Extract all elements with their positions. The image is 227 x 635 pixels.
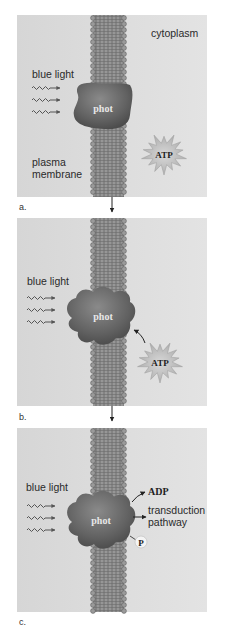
phospholipid-head [122, 441, 127, 446]
phospholipid-head [122, 579, 127, 584]
panel-a: blue light phot cytoplasm plasma membran… [17, 15, 207, 197]
phospholipid-head [122, 387, 127, 392]
phospholipid-head [91, 471, 96, 476]
phospholipid-head [91, 381, 96, 386]
panel-label-a: a. [19, 202, 27, 212]
plasma-membrane-label-line1: plasma [32, 156, 66, 168]
transduction-pathway-label-line2: pathway [148, 516, 188, 528]
phospholipid-head [122, 357, 127, 362]
cytoplasm-label: cytoplasm [151, 27, 199, 39]
phospholipid-head [122, 489, 127, 494]
phospholipid-head [122, 573, 127, 578]
phospholipid-head [91, 345, 96, 350]
phospholipid-head [122, 459, 127, 464]
phospholipid-head [122, 399, 127, 404]
phospholipid-head [91, 178, 96, 183]
panel-label-b: b. [19, 412, 27, 422]
phospholipid-head [91, 435, 96, 440]
phospholipid-head [122, 178, 127, 183]
phospholipid-head [122, 40, 127, 45]
phospholipid-head [91, 52, 96, 57]
phospholipid-head [122, 243, 127, 248]
phospholipid-head [91, 64, 96, 69]
blue-light-label: blue light [32, 68, 74, 80]
phospholipid-head [122, 393, 127, 398]
phospholipid-head [122, 28, 127, 33]
phospholipid-head [122, 225, 127, 230]
phospholipid-head [91, 477, 96, 482]
phospholipid-head [91, 357, 96, 362]
phospholipid-head [122, 477, 127, 482]
phospholipid-head [91, 76, 96, 81]
phospholipid-head [122, 351, 127, 356]
phot-label: phot [93, 311, 113, 322]
phospholipid-head [122, 70, 127, 75]
phospholipid-head [91, 489, 96, 494]
atp-label: ATP [151, 358, 169, 368]
phospholipid-head [91, 160, 96, 165]
phospholipid-head [91, 567, 96, 572]
phospholipid-head [122, 76, 127, 81]
phospholipid-head [91, 58, 96, 63]
adp-label: ADP [148, 486, 169, 497]
phospholipid-head [122, 591, 127, 596]
phospholipid-head [91, 603, 96, 608]
phospholipid-head [122, 447, 127, 452]
phospholipid-head [122, 585, 127, 590]
phospholipid-head [91, 172, 96, 177]
phospholipid-head [122, 369, 127, 374]
phospholipid-head [122, 148, 127, 153]
phospholipid-head [91, 465, 96, 470]
phospholipid-head [91, 40, 96, 45]
phospholipid-head [122, 273, 127, 278]
phospholipid-head [122, 609, 127, 614]
phospholipid-head [122, 465, 127, 470]
panel-b: blue light phot ATP [17, 218, 207, 406]
phospholipid-head [91, 387, 96, 392]
phospholipid-head [122, 261, 127, 266]
phospholipid-head [91, 375, 96, 380]
phospholipid-head [91, 255, 96, 260]
phospholipid-head [91, 267, 96, 272]
phospholipid-head [91, 28, 96, 33]
phospholipid-head [122, 231, 127, 236]
phospholipid-head [122, 255, 127, 260]
phospholipid-head [91, 190, 96, 195]
phospholipid-head [91, 555, 96, 560]
phospholipid-head [122, 46, 127, 51]
phospholipid-head [122, 130, 127, 135]
phospholipid-head [122, 154, 127, 159]
phospholipid-head [122, 483, 127, 488]
phospholipid-head [91, 579, 96, 584]
phospholipid-head [91, 393, 96, 398]
phospholipid-head [122, 267, 127, 272]
phospholipid-head [91, 459, 96, 464]
phospholipid-head [122, 345, 127, 350]
phospholipid-head [91, 219, 96, 224]
phospholipid-head [91, 549, 96, 554]
phospholipid-head [91, 142, 96, 147]
phospholipid-head [91, 154, 96, 159]
phospholipid-head [122, 237, 127, 242]
phospholipid-head [91, 447, 96, 452]
phot-label: phot [91, 515, 111, 526]
phospholipid-head [91, 483, 96, 488]
phospholipid-head [122, 249, 127, 254]
phospholipid-head [91, 285, 96, 290]
phospholipid-head [122, 561, 127, 566]
phospholipid-head [122, 471, 127, 476]
phospholipid-head [91, 561, 96, 566]
phospholipid-head [91, 363, 96, 368]
phospholipid-head [122, 453, 127, 458]
phospholipid-head [91, 46, 96, 51]
phospholipid-head [122, 16, 127, 21]
phospholipid-head [122, 166, 127, 171]
blue-light-label: blue light [26, 481, 68, 493]
phospholipid-head [122, 142, 127, 147]
phospholipid-head [122, 64, 127, 69]
phospholipid-head [122, 435, 127, 440]
phototropin-diagram: blue light phot cytoplasm plasma membran… [0, 0, 227, 635]
phospholipid-head [122, 58, 127, 63]
phospholipid-head [91, 279, 96, 284]
phospholipid-head [122, 22, 127, 27]
